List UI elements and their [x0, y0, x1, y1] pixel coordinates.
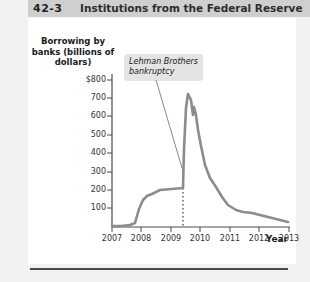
y-tick-label-500: 500 — [68, 130, 106, 139]
figure-title: Institutions from the Federal Reserve — [80, 2, 303, 14]
data-line-borrowing-by-banks — [112, 94, 288, 226]
line-chart: Borrowing by banks (billions of dollars)… — [28, 18, 296, 264]
x-tick-label-2011: 2011 — [215, 234, 245, 243]
figure-page: FIGURE 42-3 Institutions from the Federa… — [0, 0, 310, 282]
figure-card: Borrowing by banks (billions of dollars)… — [28, 18, 296, 264]
y-tick-label-700: 700 — [68, 93, 106, 102]
x-tick-label-2013: 2013 — [274, 234, 304, 243]
y-tick-label-800: $800 — [68, 75, 106, 84]
x-tick-label-2010: 2010 — [185, 234, 215, 243]
annotation-leader-line — [156, 80, 182, 168]
y-tick-label-200: 200 — [68, 185, 106, 194]
figure-number: 42-3 — [33, 2, 63, 15]
y-tick-label-300: 300 — [68, 167, 106, 176]
bottom-divider — [30, 268, 288, 270]
x-tick-label-2007: 2007 — [97, 234, 127, 243]
y-tick-marks — [107, 80, 112, 208]
figure-header: FIGURE 42-3 Institutions from the Federa… — [0, 0, 310, 18]
x-tick-label-2008: 2008 — [126, 234, 156, 243]
x-tick-marks — [112, 227, 289, 232]
x-tick-label-2009: 2009 — [156, 234, 186, 243]
y-tick-label-400: 400 — [68, 148, 106, 157]
y-tick-label-100: 100 — [68, 203, 106, 212]
y-tick-label-600: 600 — [68, 111, 106, 120]
chart-canvas — [28, 18, 296, 264]
x-tick-label-2012: 2012 — [244, 234, 274, 243]
